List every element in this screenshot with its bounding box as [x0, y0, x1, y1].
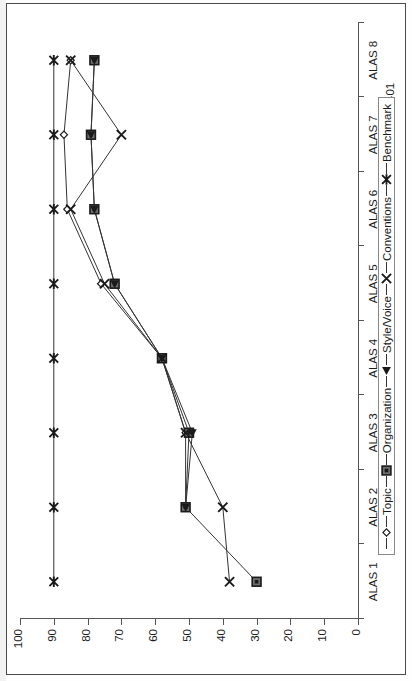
legend-label: Conventions [381, 196, 393, 262]
legend-line-segment [386, 185, 387, 196]
legend-marker-diamond-open-icon [381, 527, 392, 538]
data-point-marker [49, 577, 58, 587]
legend-line-segment [386, 354, 387, 365]
data-point-marker [49, 130, 58, 140]
data-point-marker [60, 131, 67, 138]
legend-marker-glyph [382, 466, 391, 475]
legend-marker-glyph [382, 174, 391, 184]
legend-line-segment [386, 476, 387, 487]
legend-line-segment [386, 376, 387, 387]
legend-entry: Conventions [381, 196, 393, 295]
legend-marker-triangle-left-icon [381, 365, 392, 376]
chart-legend: TopicOrganizationStyle/VoiceConventionsB… [378, 97, 395, 555]
data-point-marker [49, 502, 58, 512]
legend-label: Organization [381, 387, 393, 454]
legend-entry: Organization [381, 387, 393, 487]
legend-entry: Benchmark [381, 103, 393, 196]
data-point-marker [49, 353, 58, 363]
rotated-chart-wrapper: 0102030405060708090100 ALAS 1ALAS 2ALAS … [6, 3, 406, 675]
legend-entry: Topic [381, 487, 393, 549]
data-point-marker [252, 577, 261, 586]
legend-marker-square-filled-icon [381, 465, 392, 476]
series-line [91, 60, 192, 507]
legend-line-segment [386, 516, 387, 527]
legend-marker-asterisk-icon [381, 174, 392, 185]
data-point-marker [49, 428, 58, 438]
data-point-marker [49, 279, 58, 289]
legend-label: Style/Voice [381, 295, 393, 354]
legend-marker-glyph [382, 367, 391, 375]
data-point-marker [49, 55, 58, 65]
data-point-marker [49, 204, 58, 214]
data-point-marker [117, 130, 126, 139]
series-line [64, 60, 186, 507]
chart-figure: 0102030405060708090100 ALAS 1ALAS 2ALAS … [0, 0, 412, 681]
legend-line-segment [386, 454, 387, 465]
legend-label: Benchmark [381, 103, 393, 163]
legend-line-segment [386, 163, 387, 174]
legend-marker-glyph [382, 274, 391, 283]
legend-marker-glyph [383, 529, 390, 536]
series-line [91, 60, 257, 582]
legend-line-segment [386, 538, 387, 549]
legend-line-segment [386, 284, 387, 295]
line-chart: 0102030405060708090100 ALAS 1ALAS 2ALAS … [6, 3, 406, 675]
legend-entry: Style/Voice [381, 295, 393, 387]
legend-line-segment [386, 262, 387, 273]
series-plot [6, 3, 406, 675]
legend-label: Topic [381, 487, 393, 516]
legend-marker-x-cross-icon [381, 273, 392, 284]
